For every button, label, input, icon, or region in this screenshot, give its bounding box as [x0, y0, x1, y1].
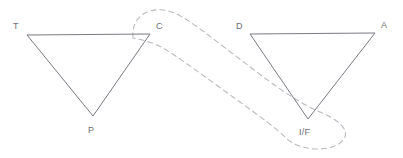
geometry-figure: [0, 0, 403, 158]
left-triangle-outline: [27, 34, 150, 116]
right-triangle-outline: [250, 33, 375, 119]
vertex-label-t: T: [13, 22, 19, 31]
left-triangle: [27, 34, 150, 116]
vertex-label-d: D: [236, 22, 243, 31]
vertex-label-if: I/F: [299, 128, 310, 137]
vertex-label-c: C: [156, 22, 163, 31]
vertex-label-a: A: [381, 21, 387, 30]
vertex-label-p: P: [88, 126, 94, 135]
diagram-canvas: T C P D A I/F: [0, 0, 403, 158]
right-triangle: [250, 33, 375, 119]
